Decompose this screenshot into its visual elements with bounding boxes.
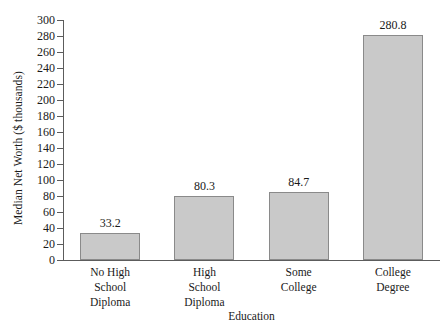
y-tick-260 [57,52,63,53]
bar-1 [174,196,234,260]
category-label-line: High [157,265,251,280]
y-tick-label-40: 40 [25,222,55,234]
y-tick-label-160: 160 [25,126,55,138]
category-label-line: Diploma [157,295,251,310]
y-tick-label-0: 0 [25,254,55,266]
y-tick-label-260: 260 [25,46,55,58]
x-axis-line [63,260,440,261]
y-tick-60 [57,212,63,213]
category-label-2: SomeCollege [252,265,346,295]
bar-value-label-3: 280.8 [353,19,433,31]
category-label-line: No High [63,265,157,280]
y-tick-220 [57,84,63,85]
category-label-line: School [63,280,157,295]
y-tick-label-220: 220 [25,78,55,90]
category-label-line: College [346,265,440,280]
y-tick-label-300: 300 [25,14,55,26]
y-tick-label-280: 280 [25,30,55,42]
bar-value-label-2: 84.7 [259,176,339,188]
y-tick-label-60: 60 [25,206,55,218]
y-tick-160 [57,132,63,133]
y-tick-label-80: 80 [25,190,55,202]
x-axis-title: Education [63,310,440,322]
y-tick-80 [57,196,63,197]
y-tick-40 [57,228,63,229]
y-tick-100 [57,180,63,181]
y-axis-line [63,20,64,261]
category-label-line: School [157,280,251,295]
category-label-line: Degree [346,280,440,295]
y-tick-label-240: 240 [25,62,55,74]
y-tick-label-180: 180 [25,110,55,122]
bar-0 [80,233,140,260]
category-label-0: No HighSchoolDiploma [63,265,157,310]
y-tick-label-140: 140 [25,142,55,154]
bar-value-label-0: 33.2 [70,217,150,229]
category-label-line: Some [252,265,346,280]
y-tick-20 [57,244,63,245]
y-tick-140 [57,148,63,149]
y-tick-label-120: 120 [25,158,55,170]
bar-value-label-1: 80.3 [164,180,244,192]
y-tick-label-20: 20 [25,238,55,250]
category-label-line: Diploma [63,295,157,310]
y-tick-label-100: 100 [25,174,55,186]
y-tick-200 [57,100,63,101]
category-label-3: CollegeDegree [346,265,440,295]
bar-2 [269,192,329,260]
bar-chart: Median Net Worth ($ thousands) 020406080… [0,0,448,331]
y-tick-label-200: 200 [25,94,55,106]
y-tick-120 [57,164,63,165]
y-tick-180 [57,116,63,117]
category-label-line: College [252,280,346,295]
plot-area: 0204060801001201401601802002202402602803… [63,20,440,260]
y-tick-280 [57,36,63,37]
bar-3 [363,35,423,260]
y-tick-300 [57,20,63,21]
category-label-1: HighSchoolDiploma [157,265,251,310]
y-tick-240 [57,68,63,69]
y-tick-0 [57,260,63,261]
